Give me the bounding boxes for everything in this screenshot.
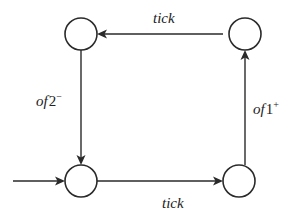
state-top-right (229, 18, 261, 50)
state-bottom-right (223, 165, 255, 197)
state-bottom-left (65, 165, 97, 197)
label-left-of2: of2− (36, 91, 62, 109)
label-right-of1: of1+ (253, 99, 279, 117)
label-left-num: 2 (49, 93, 57, 109)
label-bottom-tick: tick (162, 195, 184, 211)
label-right-of: of (253, 101, 267, 117)
label-right-num: 1 (266, 101, 274, 117)
state-top-left (65, 18, 97, 50)
label-right-sup: + (273, 99, 279, 110)
label-left-of: of (36, 93, 50, 109)
label-left-sup: − (56, 91, 62, 102)
state-diagram: tick tick of2− of1+ (0, 0, 297, 220)
label-top-tick: tick (153, 10, 175, 26)
